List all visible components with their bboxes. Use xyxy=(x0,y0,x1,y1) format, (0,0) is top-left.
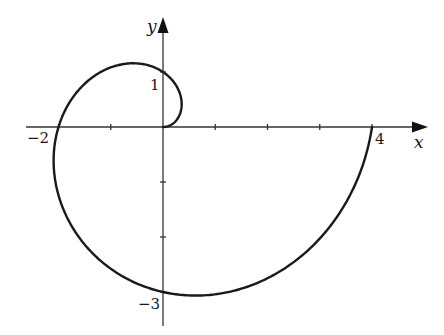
y-axis-label: y xyxy=(146,16,157,36)
tick-marks xyxy=(59,72,373,292)
x-tick-label-4: 4 xyxy=(375,130,385,148)
x-axis-arrow-icon xyxy=(412,122,428,133)
spiral-plot: y x −2 4 1 −3 xyxy=(0,0,444,335)
y-tick-label-1: 1 xyxy=(150,76,160,94)
spiral-curve xyxy=(54,63,372,295)
x-axis-label: x xyxy=(414,132,424,152)
x-tick-label-neg2: −2 xyxy=(27,129,49,147)
y-axis-arrow-icon xyxy=(158,17,169,33)
y-tick-label-neg3: −3 xyxy=(138,295,160,313)
